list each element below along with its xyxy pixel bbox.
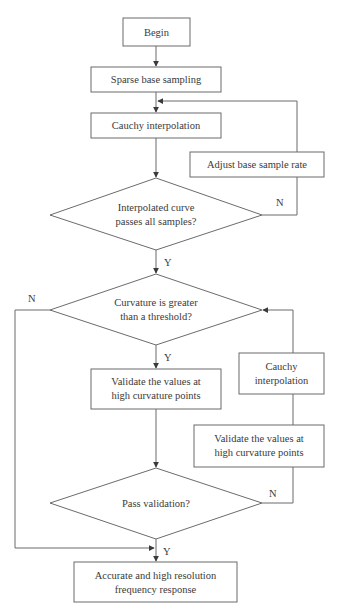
decision-pass-validation: Pass validation? — [50, 468, 262, 539]
flowchart: Begin Sparse base sampling Cauchy interp… — [0, 0, 343, 616]
node-begin: Begin — [123, 18, 190, 46]
node-validate1-line2: high curvature points — [111, 390, 200, 401]
node-validate2-line1: Validate the values at — [214, 433, 304, 444]
node-validate-values-2: Validate the values at high curvature po… — [194, 425, 324, 467]
decision-check-line1: Interpolated curve — [118, 202, 195, 213]
node-adjust-text: Adjust base sample rate — [207, 159, 307, 170]
node-cauchy-interpolation: Cauchy interpolation — [91, 113, 221, 138]
label-validation-yes: Y — [163, 546, 171, 557]
node-cauchy1-text: Cauchy interpolation — [112, 120, 201, 131]
node-validate1-line1: Validate the values at — [111, 376, 201, 387]
node-result: Accurate and high resolution frequency r… — [74, 562, 237, 602]
decision-curvature-threshold: Curvature is greater than a threshold? — [50, 274, 262, 345]
decision-check-line2: passes all samples? — [115, 216, 196, 227]
node-adjust-sample-rate: Adjust base sample rate — [190, 152, 324, 177]
node-sparse-sampling: Sparse base sampling — [91, 67, 221, 92]
label-validation-no: N — [269, 488, 277, 499]
node-cauchy2-line1: Cauchy — [265, 361, 298, 372]
label-curvature-no: N — [28, 293, 36, 304]
decision-curvature-line2: than a threshold? — [120, 311, 192, 322]
label-check-no: N — [276, 197, 284, 208]
node-result-line2: frequency response — [115, 584, 197, 595]
edge-check-no-to-adjust — [262, 177, 297, 215]
edge-pass-no-to-validate2 — [262, 467, 293, 503]
node-cauchy2-line2: interpolation — [255, 375, 309, 386]
decision-pass-text: Pass validation? — [122, 498, 190, 509]
node-validate2-line2: high curvature points — [214, 447, 303, 458]
node-validate-values: Validate the values at high curvature po… — [91, 369, 221, 409]
decision-curvature-line1: Curvature is greater — [114, 297, 198, 308]
edge-cauchy2-to-curvature — [263, 310, 293, 353]
label-curvature-yes: Y — [164, 352, 172, 363]
node-result-line1: Accurate and high resolution — [95, 570, 217, 581]
node-begin-text: Begin — [144, 27, 170, 38]
node-sparse-text: Sparse base sampling — [111, 74, 202, 85]
decision-passes-all-samples: Interpolated curve passes all samples? — [50, 178, 262, 250]
node-cauchy-interpolation-2: Cauchy interpolation — [239, 353, 324, 394]
label-check-yes: Y — [164, 257, 172, 268]
